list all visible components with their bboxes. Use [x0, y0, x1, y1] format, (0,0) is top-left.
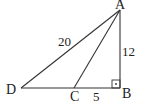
- vertex-label-c: C: [70, 89, 79, 104]
- vertex-label-b: B: [122, 86, 131, 101]
- vertex-label-d: D: [6, 82, 16, 97]
- segment-ad: [21, 10, 120, 88]
- length-label-ab: 12: [122, 44, 135, 59]
- length-label-ad: 20: [58, 34, 71, 49]
- segment-ac: [74, 10, 120, 88]
- right-angle-dot: [115, 83, 117, 85]
- length-label-cb: 5: [93, 89, 100, 104]
- vertex-label-a: A: [115, 0, 126, 12]
- triangle-diagram: A B C D 20 12 5: [0, 0, 143, 109]
